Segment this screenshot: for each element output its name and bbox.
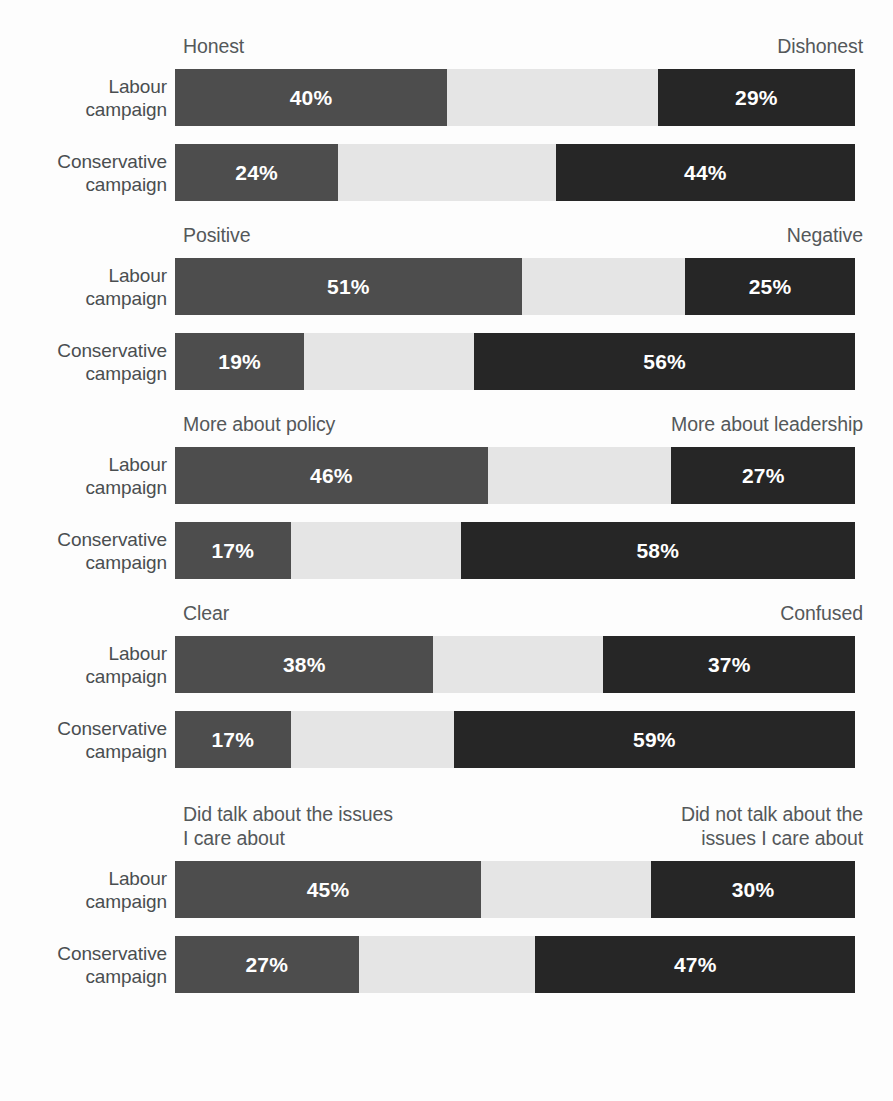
chart-section-issues-i-care-about: Did talk about the issues I care aboutDi… xyxy=(0,798,893,993)
chart-section-clear-confused: ClearConfusedLabour campaign38%37%Conser… xyxy=(0,599,893,768)
bar-track: 45%30% xyxy=(175,861,855,918)
bar-row: Conservative campaign19%56% xyxy=(0,333,893,390)
pole-label-left: Honest xyxy=(183,34,244,58)
bar-row: Conservative campaign17%58% xyxy=(0,522,893,579)
chart-section-policy-leadership: More about policyMore about leadershipLa… xyxy=(0,410,893,579)
bar-value-left: 46% xyxy=(310,464,353,488)
bar-segment-right: 59% xyxy=(454,711,855,768)
bar-segment-right: 47% xyxy=(535,936,855,993)
pole-label-right: Dishonest xyxy=(777,34,863,58)
bar-track: 27%47% xyxy=(175,936,855,993)
top-padding xyxy=(0,0,893,32)
bar-track: 38%37% xyxy=(175,636,855,693)
bar-row: Labour campaign46%27% xyxy=(0,447,893,504)
bar-track: 51%25% xyxy=(175,258,855,315)
bar-segment-left: 27% xyxy=(175,936,359,993)
bar-value-left: 38% xyxy=(283,653,326,677)
pole-label-right: Did not talk about the issues I care abo… xyxy=(681,802,863,850)
bar-track: 40%29% xyxy=(175,69,855,126)
bar-segment-right: 25% xyxy=(685,258,855,315)
bar-track: 24%44% xyxy=(175,144,855,201)
bar-track: 17%58% xyxy=(175,522,855,579)
pole-label-right: Confused xyxy=(780,601,863,625)
bar-value-left: 40% xyxy=(290,86,333,110)
bar-value-right: 59% xyxy=(633,728,676,752)
bar-value-right: 56% xyxy=(643,350,686,374)
bar-row: Labour campaign51%25% xyxy=(0,258,893,315)
bar-segment-left: 17% xyxy=(175,711,291,768)
bar-row: Labour campaign45%30% xyxy=(0,861,893,918)
bar-row-label: Conservative campaign xyxy=(0,717,175,763)
pole-label-left: Did talk about the issues I care about xyxy=(183,802,393,850)
bar-row-label: Conservative campaign xyxy=(0,150,175,196)
bar-segment-right: 27% xyxy=(671,447,855,504)
chart-section-honest: HonestDishonestLabour campaign40%29%Cons… xyxy=(0,32,893,201)
pole-label-left: More about policy xyxy=(183,412,335,436)
bar-segment-right: 56% xyxy=(474,333,855,390)
bar-row: Labour campaign40%29% xyxy=(0,69,893,126)
chart-section-positive: PositiveNegativeLabour campaign51%25%Con… xyxy=(0,221,893,390)
bar-row-label: Labour campaign xyxy=(0,867,175,913)
pole-label-right: More about leadership xyxy=(671,412,863,436)
pole-label-right: Negative xyxy=(787,223,863,247)
bar-row: Conservative campaign17%59% xyxy=(0,711,893,768)
pole-labels: Did talk about the issues I care aboutDi… xyxy=(183,798,863,850)
pole-labels: PositiveNegative xyxy=(183,221,863,247)
bar-value-left: 24% xyxy=(235,161,278,185)
bar-segment-right: 58% xyxy=(461,522,855,579)
bar-track: 17%59% xyxy=(175,711,855,768)
bar-segment-left: 46% xyxy=(175,447,488,504)
bar-row-label: Labour campaign xyxy=(0,264,175,310)
bar-segment-right: 44% xyxy=(556,144,855,201)
bar-row: Conservative campaign27%47% xyxy=(0,936,893,993)
pole-label-left: Positive xyxy=(183,223,250,247)
bar-value-left: 51% xyxy=(327,275,370,299)
bar-row: Labour campaign38%37% xyxy=(0,636,893,693)
bar-value-left: 17% xyxy=(211,539,254,563)
section-spacer xyxy=(0,579,893,599)
bar-value-left: 17% xyxy=(211,728,254,752)
bar-row-label: Conservative campaign xyxy=(0,942,175,988)
bar-segment-right: 37% xyxy=(603,636,855,693)
bar-segment-right: 30% xyxy=(651,861,855,918)
bar-value-right: 27% xyxy=(742,464,785,488)
bar-segment-right: 29% xyxy=(658,69,855,126)
bar-row-label: Labour campaign xyxy=(0,453,175,499)
section-spacer xyxy=(0,768,893,798)
bar-row-label: Labour campaign xyxy=(0,75,175,121)
diverging-bar-chart: HonestDishonestLabour campaign40%29%Cons… xyxy=(0,0,893,1101)
bar-segment-left: 24% xyxy=(175,144,338,201)
bar-row-label: Conservative campaign xyxy=(0,528,175,574)
bar-track: 19%56% xyxy=(175,333,855,390)
bar-row-label: Conservative campaign xyxy=(0,339,175,385)
bar-segment-left: 51% xyxy=(175,258,522,315)
bar-value-right: 30% xyxy=(732,878,775,902)
bar-segment-left: 38% xyxy=(175,636,433,693)
bar-segment-left: 19% xyxy=(175,333,304,390)
chart-sections: HonestDishonestLabour campaign40%29%Cons… xyxy=(0,32,893,993)
section-spacer xyxy=(0,390,893,410)
bar-value-left: 27% xyxy=(245,953,288,977)
bar-row-label: Labour campaign xyxy=(0,642,175,688)
bar-segment-left: 45% xyxy=(175,861,481,918)
bar-segment-left: 17% xyxy=(175,522,291,579)
pole-label-left: Clear xyxy=(183,601,229,625)
bar-value-right: 25% xyxy=(749,275,792,299)
bar-value-left: 19% xyxy=(218,350,261,374)
section-spacer xyxy=(0,201,893,221)
bar-value-right: 58% xyxy=(636,539,679,563)
pole-labels: HonestDishonest xyxy=(183,32,863,58)
bar-track: 46%27% xyxy=(175,447,855,504)
pole-labels: More about policyMore about leadership xyxy=(183,410,863,436)
bar-row: Conservative campaign24%44% xyxy=(0,144,893,201)
bar-segment-left: 40% xyxy=(175,69,447,126)
bar-value-right: 47% xyxy=(674,953,717,977)
bar-value-right: 29% xyxy=(735,86,778,110)
bar-value-right: 44% xyxy=(684,161,727,185)
bar-value-right: 37% xyxy=(708,653,751,677)
bar-value-left: 45% xyxy=(307,878,350,902)
pole-labels: ClearConfused xyxy=(183,599,863,625)
